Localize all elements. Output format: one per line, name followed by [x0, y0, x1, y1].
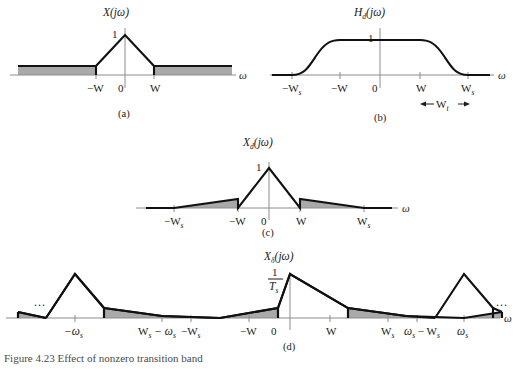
- shade-right-a: [154, 66, 232, 75]
- panel-d-tick-zero: 0: [271, 325, 277, 337]
- panel-b-title: Hd(jω): [353, 6, 385, 21]
- panel-c-tick-negWs: −Ws: [164, 215, 184, 230]
- panel-b-tick-negW: −W: [331, 82, 348, 94]
- panel-c-title: Xd(jω): [242, 136, 273, 151]
- panel-c-peak-label: 1: [256, 161, 262, 173]
- panel-d: Xδ(jω) 1 Ts ... ... −ωs Ws − ωs −Ws −W 0…: [0, 244, 520, 354]
- panel-a-title: X(jω): [102, 6, 129, 19]
- panel-d-tick-W: W: [326, 325, 337, 337]
- panel-c: Xd(jω) 1 −Ws −W 0 W Ws ω (c): [130, 130, 420, 238]
- panel-b-tick-negWs: −Ws: [282, 82, 302, 97]
- panel-c-tick-zero: 0: [261, 215, 267, 227]
- panel-a-tick-W: W: [150, 82, 161, 94]
- panel-b-peak-label: 1: [368, 32, 374, 44]
- panel-b-caption: (b): [374, 112, 387, 124]
- panel-d-ellipsis-right: ...: [496, 295, 508, 309]
- shade-left-a: [18, 66, 96, 75]
- panel-c-axis-label: ω: [402, 202, 410, 214]
- panel-b-tick-zero: 0: [372, 82, 378, 94]
- panel-b-tick-W: W: [416, 82, 427, 94]
- panel-a-peak-label: 1: [112, 28, 118, 40]
- panel-d-title: Xδ(jω): [263, 250, 294, 265]
- panel-d-peak-denominator: Ts: [269, 280, 278, 295]
- figure-caption: Figure 4.23 Effect of nonzero transition…: [4, 352, 203, 364]
- panel-c-tick-Ws: Ws: [357, 215, 370, 230]
- panel-c-caption: (c): [262, 227, 274, 239]
- panel-b-axis-label: ω: [498, 69, 506, 81]
- panel-d-tick-negWs: −Ws: [181, 325, 201, 340]
- figure-root: X(jω) 1 −W 0 W ω (a) Hd(jω) 1 −Ws −W 0 W…: [0, 0, 520, 369]
- panel-a-tick-zero: 0: [118, 82, 124, 94]
- panel-b: Hd(jω) 1 −Ws −W 0 W Ws Wt ω (b): [262, 0, 520, 125]
- panel-a-tick-negW: −W: [87, 82, 104, 94]
- panel-b-tick-Ws: Ws: [461, 82, 474, 97]
- panel-d-ellipsis-left: ...: [34, 295, 46, 309]
- figure-caption-strip: Figure 4.23 Effect of nonzero transition…: [0, 352, 520, 369]
- transition-arrow-right-b: [464, 102, 470, 107]
- replica-left-d: [46, 274, 104, 318]
- panel-a: X(jω) 1 −W 0 W ω (a): [0, 0, 250, 125]
- panel-d-tick-omegas: ωs: [457, 325, 468, 340]
- panel-d-tick-Ws-minus-omegas: Ws − ωs: [138, 325, 176, 340]
- panel-a-axis-label: ω: [239, 69, 247, 81]
- panel-d-peak-numerator: 1: [272, 266, 278, 278]
- replica-center-d: [278, 274, 348, 318]
- panel-c-tick-negW: −W: [229, 215, 246, 227]
- replica-right-d: [435, 274, 493, 318]
- panel-a-caption: (a): [118, 108, 130, 120]
- panel-d-tick-neg-omegas: −ωs: [64, 325, 83, 340]
- transition-arrow-left-b: [420, 102, 426, 107]
- panel-d-tick-Ws: Ws: [381, 325, 394, 340]
- filter-response-b: [272, 40, 490, 75]
- panel-d-axis-label: ω: [504, 312, 512, 324]
- panel-d-tick-omegas-minus-Ws: ωs − Ws: [404, 325, 440, 340]
- panel-c-tick-W: W: [296, 215, 307, 227]
- panel-d-tick-negW: −W: [240, 325, 257, 337]
